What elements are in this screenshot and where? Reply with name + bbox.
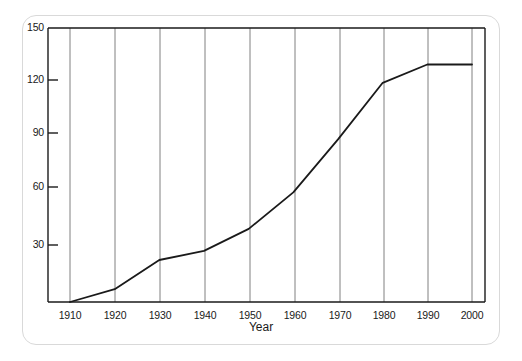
x-axis-title: Year [0, 320, 522, 334]
y-tick-label-120: 120 [18, 74, 44, 85]
plot-frame [48, 28, 485, 302]
line-chart-plot [0, 0, 522, 361]
y-tick-label-30: 30 [18, 239, 44, 250]
y-axis-ticks [48, 80, 58, 245]
y-tick-label-90: 90 [18, 127, 44, 138]
data-line-series-1 [70, 65, 472, 303]
gridlines-vertical [70, 28, 472, 302]
y-tick-label-150: 150 [18, 22, 44, 33]
y-tick-label-60: 60 [18, 181, 44, 192]
chart-figure: 150 120 90 60 30 1910 1920 1930 1940 195… [0, 0, 522, 361]
